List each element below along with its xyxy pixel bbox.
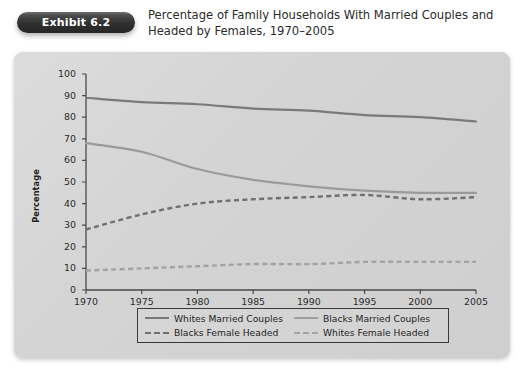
exhibit-badge-label: Exhibit 6.2 <box>42 17 111 28</box>
legend-item: Blacks Female Headed <box>145 327 294 338</box>
legend-swatch-icon <box>294 317 318 319</box>
legend-item-label: Blacks Female Headed <box>174 327 278 338</box>
exhibit-badge: Exhibit 6.2 <box>17 12 135 33</box>
legend-item: Whites Married Couples <box>145 313 294 324</box>
page-title-line-2: Headed by Females, 1970–2005 <box>148 24 514 40</box>
legend-item-label: Whites Married Couples <box>174 313 283 324</box>
page-title-line-1: Percentage of Family Households With Mar… <box>148 8 514 24</box>
chart-line-series-0 <box>86 98 476 122</box>
legend-item-label: Whites Female Headed <box>323 327 429 338</box>
chart-panel-surface: Percentage 0102030405060708090100 197019… <box>14 52 510 358</box>
chart-line-series-1 <box>86 143 476 193</box>
legend-item: Whites Female Headed <box>294 327 443 338</box>
page-title: Percentage of Family Households With Mar… <box>148 8 514 39</box>
exhibit-header: Exhibit 6.2 Percentage of Family Househo… <box>0 0 524 52</box>
legend-swatch-icon <box>294 332 318 334</box>
chart-legend: Whites Married CouplesBlacks Married Cou… <box>137 308 449 343</box>
legend-swatch-icon <box>145 332 169 334</box>
legend-swatch-icon <box>145 317 169 319</box>
chart-line-series-2 <box>86 195 476 230</box>
chart-line-series-3 <box>86 262 476 271</box>
chart-panel: Percentage 0102030405060708090100 197019… <box>14 52 510 358</box>
chart-series <box>86 98 476 271</box>
legend-item-label: Blacks Married Couples <box>323 313 430 324</box>
chart-legend-grid: Whites Married CouplesBlacks Married Cou… <box>138 309 448 342</box>
legend-item: Blacks Married Couples <box>294 313 443 324</box>
